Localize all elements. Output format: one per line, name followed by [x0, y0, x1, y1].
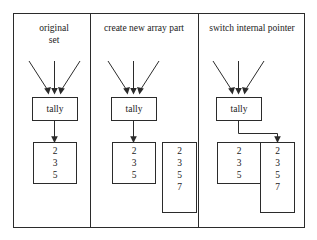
internal-pointer-head: [130, 136, 137, 143]
array-value: 2: [237, 146, 242, 156]
array-value: 5: [132, 170, 137, 180]
array-value: 5: [237, 170, 242, 180]
input-arrow-right-head: [137, 87, 144, 95]
array-value: 3: [53, 158, 58, 168]
panel-original-set: original set tally 2 3 5: [29, 23, 80, 184]
array-value: 2: [53, 146, 58, 156]
panel-title-line-1: switch internal pointer: [209, 23, 295, 33]
input-arrow-left-line: [213, 61, 231, 89]
tally-box-label: tally: [126, 104, 143, 114]
set-representation-diagram: original set tally 2 3 5 create new arra…: [0, 0, 317, 240]
input-arrow-right-head: [58, 87, 65, 95]
array-value: 5: [275, 170, 280, 180]
input-arrows: [29, 61, 80, 95]
input-arrow-middle-head: [51, 88, 58, 95]
array-value: 2: [177, 146, 182, 156]
panel-title-line-1: create new array part: [104, 23, 184, 33]
array-value: 2: [132, 146, 137, 156]
array-value: 5: [53, 170, 58, 180]
array-value: 7: [275, 182, 280, 192]
internal-pointer-elbow: [239, 121, 278, 138]
panel-title-line-2: set: [49, 35, 60, 45]
array-value: 3: [275, 158, 280, 168]
tally-box-label: tally: [47, 104, 64, 114]
input-arrows: [108, 61, 159, 95]
input-arrow-left-head: [44, 87, 51, 95]
array-value: 5: [177, 170, 182, 180]
input-arrow-right-head: [242, 87, 249, 95]
input-arrow-middle-head: [130, 88, 137, 95]
input-arrow-left-head: [228, 87, 235, 95]
array-value: 2: [275, 146, 280, 156]
input-arrow-right-line: [246, 61, 264, 89]
input-arrow-right-line: [141, 61, 159, 89]
diagram-container: original set tally 2 3 5 create new arra…: [0, 0, 317, 240]
array-value: 3: [132, 158, 137, 168]
internal-pointer-head: [51, 136, 58, 143]
input-arrow-right-line: [62, 61, 80, 89]
panel-create-new-array-part: create new array part tally 2 3 5 2 3 5 …: [104, 23, 196, 213]
array-value: 3: [237, 158, 242, 168]
input-arrow-left-line: [108, 61, 126, 89]
input-arrow-left-line: [29, 61, 47, 89]
input-arrow-left-head: [123, 87, 130, 95]
input-arrows: [213, 61, 264, 95]
array-value: 3: [177, 158, 182, 168]
panel-switch-internal-pointer: switch internal pointer tally 2 3 5 2 3 …: [209, 23, 295, 213]
input-arrow-middle-head: [235, 88, 242, 95]
panel-title-line-1: original: [39, 23, 69, 33]
tally-box-label: tally: [231, 104, 248, 114]
array-value: 7: [177, 182, 182, 192]
internal-pointer-head: [274, 136, 281, 143]
